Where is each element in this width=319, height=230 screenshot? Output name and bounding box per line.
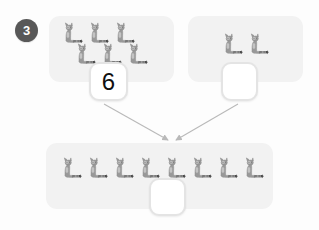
question-number-badge: 3 <box>15 19 38 42</box>
arrow-from-first-addend <box>104 104 168 140</box>
cat-counter-icon <box>242 157 264 181</box>
cat-counter-icon <box>247 33 269 57</box>
cat-counter-icon <box>126 43 148 67</box>
total-answer-box[interactable] <box>149 178 186 216</box>
cat-counter-icon <box>190 157 212 181</box>
second-addend-answer-box[interactable] <box>221 62 258 101</box>
cat-counter-icon <box>86 157 108 181</box>
worksheet-canvas: 3 6 <box>0 0 319 230</box>
first-addend-answer-box[interactable]: 6 <box>89 62 128 101</box>
arrow-from-second-addend <box>176 104 238 140</box>
cat-counter-icon <box>60 157 82 181</box>
cat-counter-icon <box>221 33 243 57</box>
cat-counter-icon <box>112 157 134 181</box>
cat-counter-icon <box>216 157 238 181</box>
